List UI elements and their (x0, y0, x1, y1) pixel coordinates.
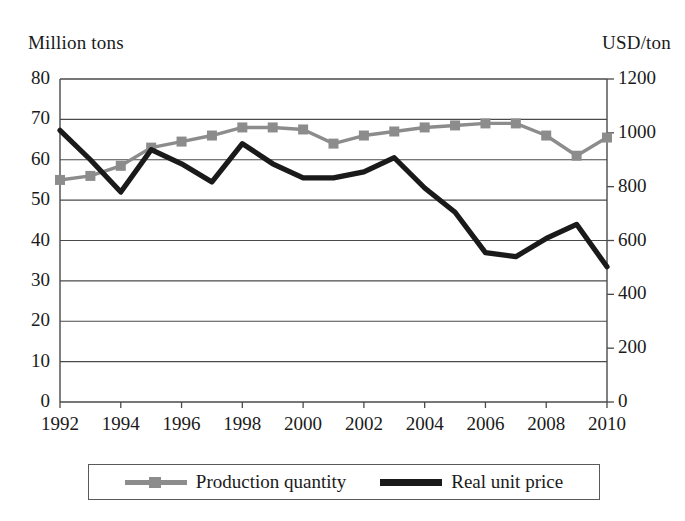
x-axis-tick-label: 2006 (453, 413, 517, 435)
legend-swatch-production (125, 475, 187, 489)
series-marker-0 (85, 171, 95, 181)
series-marker-0 (541, 131, 551, 141)
series-marker-0 (420, 122, 430, 132)
y-axis-tick-label: 50 (4, 188, 50, 210)
y-axis-tick-label: 80 (4, 67, 50, 89)
x-axis-tick-label: 2008 (514, 413, 578, 435)
y2-axis-tick-label: 400 (618, 282, 678, 304)
x-axis-tick-label: 2010 (575, 413, 639, 435)
y2-axis-tick-label: 1000 (618, 121, 678, 143)
y2-axis-tick-label: 0 (618, 390, 678, 412)
series-line-1 (60, 130, 607, 266)
series-marker-0 (55, 175, 65, 185)
series-marker-0 (329, 139, 339, 149)
legend-swatch-price (380, 475, 442, 489)
series-line-0 (60, 123, 607, 180)
y2-axis-tick-label: 600 (618, 229, 678, 251)
y-axis-tick-label: 10 (4, 350, 50, 372)
series-marker-0 (207, 131, 217, 141)
legend-label-price: Real unit price (451, 471, 563, 493)
legend-item-price[interactable]: Real unit price (380, 471, 563, 493)
series-marker-0 (511, 118, 521, 128)
plot-area (0, 0, 685, 521)
y-axis-tick-label: 40 (4, 229, 50, 251)
y-axis-tick-label: 60 (4, 148, 50, 170)
series-marker-0 (268, 122, 278, 132)
series-marker-0 (359, 131, 369, 141)
x-axis-tick-label: 2002 (332, 413, 396, 435)
x-axis-tick-label: 2004 (393, 413, 457, 435)
series-marker-0 (298, 124, 308, 134)
x-axis-tick-label: 1996 (150, 413, 214, 435)
y2-axis-tick-label: 1200 (618, 67, 678, 89)
series-marker-0 (572, 151, 582, 161)
chart-figure: Million tons USD/ton Production quantity… (0, 0, 685, 521)
chart-legend: Production quantity Real unit price (88, 464, 600, 500)
chart-canvas (0, 0, 685, 521)
y-axis-tick-label: 0 (4, 390, 50, 412)
legend-label-production: Production quantity (196, 471, 346, 493)
x-axis-tick-label: 1992 (28, 413, 92, 435)
series-marker-0 (602, 133, 612, 143)
x-axis-tick-label: 2000 (271, 413, 335, 435)
y2-axis-tick-label: 800 (618, 175, 678, 197)
x-axis-tick-label: 1994 (89, 413, 153, 435)
y2-axis-tick-label: 200 (618, 336, 678, 358)
series-marker-0 (480, 118, 490, 128)
series-marker-0 (389, 126, 399, 136)
series-marker-0 (116, 161, 126, 171)
series-marker-0 (177, 137, 187, 147)
series-marker-0 (450, 120, 460, 130)
series-marker-0 (237, 122, 247, 132)
y-axis-tick-label: 70 (4, 107, 50, 129)
legend-item-production[interactable]: Production quantity (125, 471, 346, 493)
x-axis-tick-label: 1998 (210, 413, 274, 435)
y-axis-tick-label: 20 (4, 309, 50, 331)
y-axis-tick-label: 30 (4, 269, 50, 291)
